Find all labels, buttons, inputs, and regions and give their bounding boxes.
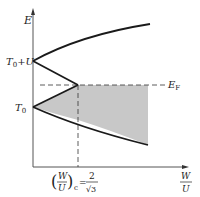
- filled-band-left: [33, 85, 78, 120]
- x-axis-arrow-icon: [182, 165, 189, 169]
- svg-text:W: W: [181, 171, 191, 181]
- t0-plus-u-label: T0+U: [6, 56, 35, 69]
- svg-text:): ): [67, 172, 73, 191]
- svg-text:2: 2: [89, 171, 95, 181]
- svg-text:c: c: [74, 184, 78, 192]
- y-axis-label: E: [23, 14, 32, 27]
- upper-band-edge: [33, 24, 150, 61]
- band-diagram: E T0+U T0 EF ( W U ) c = 2 √3 W U: [0, 0, 200, 197]
- svg-text:U: U: [58, 183, 66, 193]
- svg-text:√3: √3: [86, 185, 96, 194]
- critical-value-label: ( W U ) c = 2 √3: [51, 171, 98, 194]
- svg-text:U: U: [182, 184, 190, 194]
- t0-label: T0: [15, 102, 26, 115]
- fermi-label: EF: [167, 79, 180, 92]
- svg-text:(: (: [51, 172, 57, 191]
- x-axis-label: W U: [180, 171, 192, 194]
- upper-band-bottom-edge: [33, 61, 78, 85]
